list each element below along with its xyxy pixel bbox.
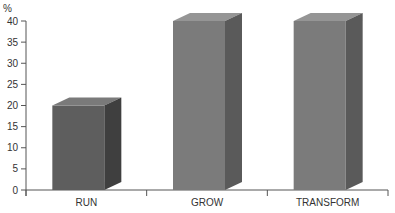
bar-grow <box>173 13 242 190</box>
bar-run <box>52 98 121 191</box>
y-tick-label: 25 <box>7 79 19 90</box>
bar-chart: % 0510152025303540 RUNGROWTRANSFORM <box>0 0 395 213</box>
y-tick-label: 0 <box>12 185 18 196</box>
category-label: TRANSFORM <box>296 197 359 208</box>
y-axis: 0510152025303540 <box>7 16 26 197</box>
y-tick-label: 35 <box>7 37 19 48</box>
bar-transform <box>294 13 363 190</box>
y-tick-label: 30 <box>7 58 19 69</box>
bars <box>52 13 362 190</box>
y-tick-label: 10 <box>7 142 19 153</box>
y-tick-label: 20 <box>7 100 19 111</box>
x-axis <box>26 190 388 196</box>
category-labels: RUNGROWTRANSFORM <box>75 197 359 208</box>
y-tick-label: 5 <box>12 163 18 174</box>
y-tick-label: 40 <box>7 16 19 27</box>
y-tick-label: 15 <box>7 121 19 132</box>
category-label: GROW <box>191 197 224 208</box>
y-axis-label: % <box>3 3 12 14</box>
category-label: RUN <box>75 197 97 208</box>
